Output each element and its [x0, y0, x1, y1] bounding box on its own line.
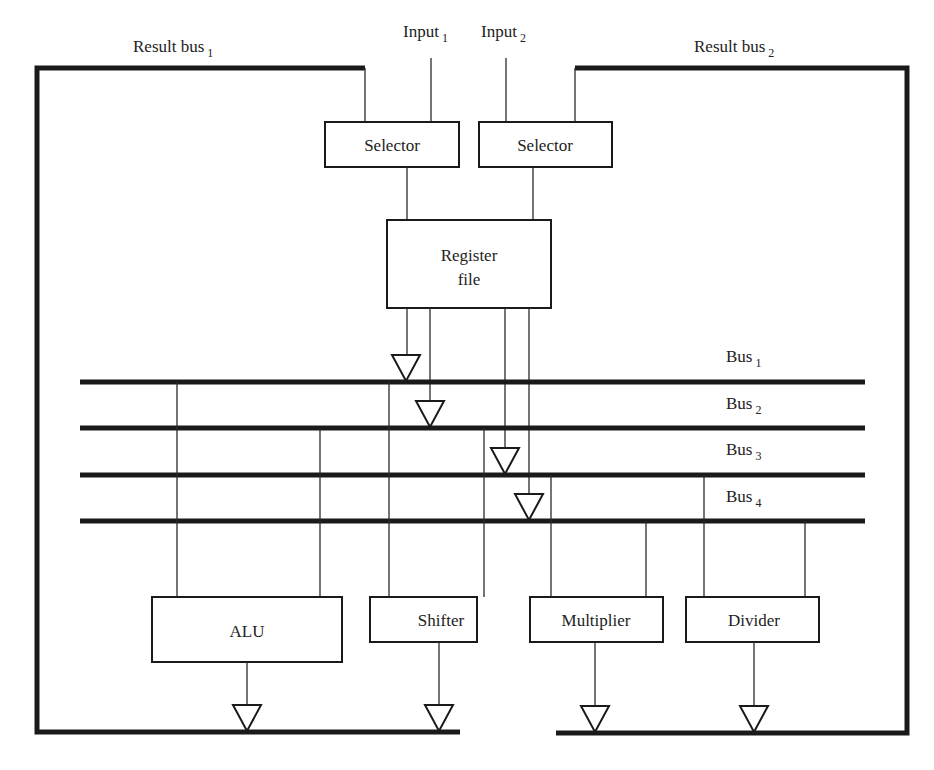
register-file: Register file	[387, 220, 551, 308]
selector-1-label: Selector	[364, 136, 420, 155]
bus-3-label: Bus3	[726, 440, 761, 463]
unit-input-taps	[177, 382, 805, 597]
bus-1: Bus1	[80, 347, 865, 382]
register-file-label-line1: Register	[441, 246, 498, 265]
driver-triangle-icon	[491, 448, 519, 474]
input-1-label: Input1	[403, 22, 448, 45]
bus-4-label: Bus4	[726, 487, 761, 510]
datapath-diagram: Result bus1 Result bus2 Input1 Input2 Se…	[0, 0, 934, 770]
input-2: Input2	[481, 22, 526, 122]
input-2-label: Input2	[481, 22, 526, 45]
driver-triangle-icon	[392, 355, 420, 381]
alu-unit: ALU	[152, 597, 342, 731]
driver-triangle-icon	[581, 706, 609, 732]
register-file-drivers	[392, 308, 543, 520]
divider-unit: Divider	[686, 597, 819, 732]
driver-triangle-icon	[515, 494, 543, 520]
bus-4: Bus4	[80, 487, 865, 521]
selector-2-label: Selector	[517, 136, 573, 155]
bus-2: Bus2	[80, 394, 865, 428]
bus-2-label: Bus2	[726, 394, 761, 417]
driver-triangle-icon	[740, 706, 768, 732]
multiplier-label: Multiplier	[562, 611, 631, 630]
multiplier-unit: Multiplier	[530, 597, 663, 732]
register-file-label-line2: file	[458, 270, 481, 289]
result-bus-1-label: Result bus1	[133, 37, 213, 60]
driver-triangle-icon	[233, 705, 261, 731]
result-bus-2-label: Result bus2	[694, 37, 774, 60]
divider-label: Divider	[728, 611, 780, 630]
selector-1: Selector	[325, 122, 459, 220]
bus-3: Bus3	[80, 440, 865, 475]
shifter-unit: Shifter	[370, 597, 477, 731]
bus-1-label: Bus1	[726, 347, 761, 370]
driver-triangle-icon	[425, 705, 453, 731]
alu-label: ALU	[230, 622, 265, 641]
driver-triangle-icon	[416, 401, 444, 427]
selector-2: Selector	[479, 122, 612, 220]
shifter-label: Shifter	[418, 611, 465, 630]
input-1: Input1	[403, 22, 448, 122]
